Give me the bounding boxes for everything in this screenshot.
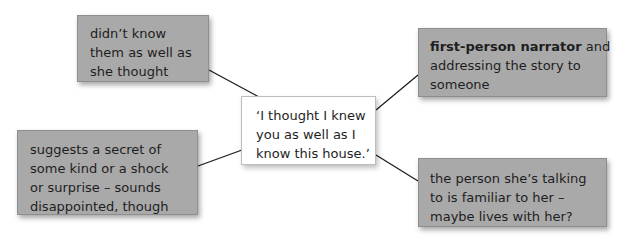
note-line: didn’t know <box>90 24 198 43</box>
annotation-diagram: didn’t know them as well as she thought … <box>0 0 629 242</box>
bold-term: first-person narrator <box>430 39 582 54</box>
note-line: to is familiar to her – <box>430 188 596 207</box>
connector-top-left <box>209 70 259 97</box>
central-quote: ‘I thought I knew you as well as I know … <box>241 96 376 165</box>
connector-bottom-left <box>198 150 242 166</box>
note-line: them as well as <box>90 43 198 62</box>
note-top-left: didn’t know them as well as she thought <box>77 15 209 82</box>
quote-line: ‘I thought I knew <box>256 106 367 125</box>
note-line: suggests a secret of <box>30 140 187 159</box>
note-text: and <box>586 39 610 54</box>
note-line: disappointed, though <box>30 197 187 216</box>
note-line: she thought <box>90 62 198 81</box>
note-bottom-right: the person she’s talking to is familiar … <box>418 158 607 227</box>
connector-top-right <box>376 75 418 110</box>
quote-line: you as well as I <box>256 125 367 144</box>
connector-bottom-right <box>376 155 418 181</box>
note-bottom-left: suggests a secret of some kind or a shoc… <box>17 130 198 215</box>
note-line: maybe lives with her? <box>430 207 596 226</box>
note-line: the person she’s talking <box>430 169 596 188</box>
note-top-right: first-person narrator and addressing the… <box>418 28 607 97</box>
quote-line: know this house.’ <box>256 144 367 163</box>
note-line: addressing the story to <box>430 56 596 75</box>
note-line: some kind or a shock <box>30 159 187 178</box>
note-line: someone <box>430 75 596 94</box>
note-line: first-person narrator and <box>430 37 596 56</box>
note-line: or surprise – sounds <box>30 178 187 197</box>
